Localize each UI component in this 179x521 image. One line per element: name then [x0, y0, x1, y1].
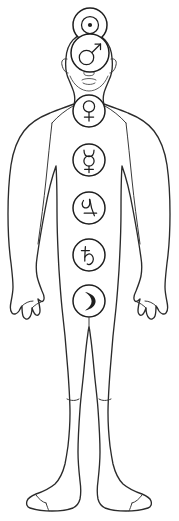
mars-disc[interactable]	[71, 34, 109, 72]
planet-marker-jupiter[interactable]: Jupiter	[73, 192, 105, 224]
planet-marker-mercury[interactable]: Mercury	[73, 144, 105, 176]
saturn-icon-stem	[85, 247, 86, 261]
planet-marker-saturn[interactable]: Saturn	[73, 239, 105, 271]
venus-disc[interactable]	[73, 95, 105, 127]
sun-icon-dot	[88, 23, 92, 27]
body-diagram-svg: Sun Mars Venus Mercury	[0, 0, 179, 521]
saturn-disc[interactable]	[73, 239, 105, 271]
planet-marker-moon[interactable]: Moon	[73, 285, 105, 317]
jupiter-disc[interactable]	[73, 192, 105, 224]
planetary-body-diagram: Human Figure with Seven Classical Planet…	[0, 0, 179, 521]
planet-marker-venus[interactable]: Venus	[73, 95, 105, 127]
planet-marker-mars[interactable]: Mars	[71, 34, 109, 72]
moon-disc[interactable]	[73, 285, 105, 317]
